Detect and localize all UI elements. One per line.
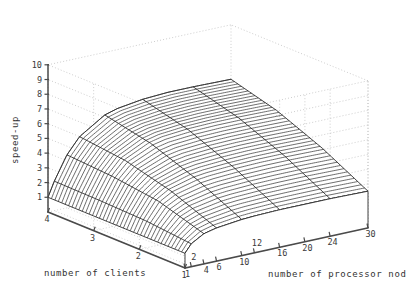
y-tick-label: 20 xyxy=(302,243,312,253)
z-tick-label: 3 xyxy=(37,163,42,173)
surface-plot-figure: 1234567891043211246101216202430 number o… xyxy=(0,0,408,301)
z-tick-label: 9 xyxy=(37,75,42,85)
y-tick-label: 16 xyxy=(277,248,287,258)
y-tick-label: 12 xyxy=(252,238,262,248)
y-axis-title: number of processor nod xyxy=(268,269,406,279)
y-tick-label: 30 xyxy=(365,229,375,239)
y-tick-label: 6 xyxy=(216,262,221,272)
y-tick-label: 24 xyxy=(328,237,338,247)
x-tick-label: 3 xyxy=(90,233,95,243)
x-axis-title: number of clients xyxy=(44,268,146,278)
z-tick-label: 2 xyxy=(37,178,42,188)
plot-canvas: 1234567891043211246101216202430 number o… xyxy=(0,0,408,301)
y-tick-label: 2 xyxy=(191,252,196,262)
z-axis-title: speed-up xyxy=(10,116,20,164)
x-tick-label: 2 xyxy=(136,251,141,261)
z-tick-label: 8 xyxy=(37,89,42,99)
z-tick-label: 6 xyxy=(37,119,42,129)
y-tick-label: 1 xyxy=(185,269,190,279)
z-tick-label: 4 xyxy=(37,148,42,158)
z-tick-label: 7 xyxy=(37,104,42,114)
z-tick-label: 5 xyxy=(37,133,42,143)
y-tick-label: 10 xyxy=(239,257,249,267)
z-tick-label: 10 xyxy=(32,60,42,70)
x-tick-label: 4 xyxy=(44,214,49,224)
z-tick-label: 1 xyxy=(37,192,42,202)
y-tick-label: 4 xyxy=(204,265,209,275)
surface-mesh xyxy=(48,79,368,268)
